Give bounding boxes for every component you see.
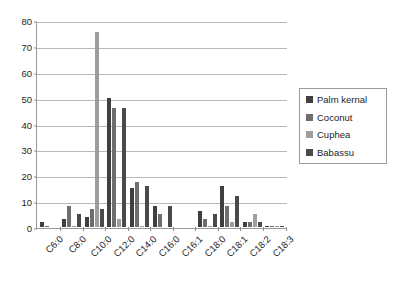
bar bbox=[270, 226, 274, 227]
bar bbox=[40, 222, 44, 227]
legend-label: Palm kernal bbox=[317, 95, 367, 105]
bar bbox=[100, 209, 104, 227]
bar bbox=[117, 219, 121, 227]
bar bbox=[198, 211, 202, 227]
legend-item: Babassu bbox=[306, 148, 382, 158]
bar-group bbox=[241, 22, 264, 227]
x-axis-label-cell: C12:0 bbox=[105, 231, 128, 279]
bar bbox=[62, 219, 66, 227]
bar bbox=[130, 188, 134, 227]
legend-item: Palm kernal bbox=[306, 95, 382, 105]
x-axis-label-cell: C14:0 bbox=[128, 231, 151, 279]
legend: Palm kernalCoconutCupheaBabassu bbox=[299, 88, 387, 164]
legend-swatch-icon bbox=[306, 131, 313, 138]
bar bbox=[112, 108, 116, 227]
y-axis-tick-mark bbox=[34, 47, 37, 48]
x-axis-tick-label: C18:3 bbox=[270, 234, 295, 259]
y-axis-tick-mark bbox=[34, 22, 37, 23]
bar-group bbox=[173, 22, 196, 227]
y-axis-tick-mark bbox=[34, 203, 37, 204]
y-axis-tick-mark bbox=[34, 125, 37, 126]
x-axis-label-cell: C18:2 bbox=[242, 231, 265, 279]
y-axis-tick-label: 0 bbox=[27, 224, 32, 234]
bar bbox=[220, 186, 224, 227]
y-axis-tick-label: 50 bbox=[21, 95, 32, 105]
y-axis-tick-label: 30 bbox=[21, 147, 32, 157]
bar bbox=[248, 222, 252, 227]
bar bbox=[67, 206, 71, 227]
y-axis-tick-label: 20 bbox=[21, 173, 32, 183]
bar-group bbox=[106, 22, 129, 227]
legend-item: Cuphea bbox=[306, 130, 382, 140]
bar-group bbox=[263, 22, 286, 227]
legend-label: Cuphea bbox=[317, 130, 350, 140]
bar-group bbox=[83, 22, 106, 227]
y-axis-tick-mark bbox=[34, 229, 37, 230]
legend-item: Coconut bbox=[306, 113, 382, 123]
bar bbox=[45, 226, 49, 227]
y-axis-tick-mark bbox=[34, 151, 37, 152]
legend-label: Coconut bbox=[317, 113, 352, 123]
bar bbox=[158, 214, 162, 227]
legend-swatch-icon bbox=[306, 114, 313, 121]
y-axis-tick-label: 60 bbox=[21, 69, 32, 79]
bar bbox=[280, 226, 284, 227]
bar bbox=[168, 206, 172, 227]
bar bbox=[265, 226, 269, 227]
bar bbox=[95, 32, 99, 227]
bar bbox=[253, 214, 257, 227]
bar bbox=[208, 226, 212, 227]
bar-group bbox=[128, 22, 151, 227]
legend-swatch-icon bbox=[306, 96, 313, 103]
bar bbox=[258, 222, 262, 227]
bar-group bbox=[196, 22, 219, 227]
y-axis-tick-label: 80 bbox=[21, 17, 32, 27]
bar bbox=[243, 222, 247, 227]
bar bbox=[85, 217, 89, 227]
x-axis-labels: C6:0C8:0C10:0C12:0C14:0C16:0C16:1C18:0C1… bbox=[37, 231, 287, 279]
bar bbox=[122, 108, 126, 227]
bar bbox=[90, 209, 94, 227]
x-axis-label-cell: C18:0 bbox=[196, 231, 219, 279]
bar bbox=[140, 226, 144, 227]
y-axis-tick-mark bbox=[34, 99, 37, 100]
bar bbox=[275, 226, 279, 227]
x-axis-label-cell: C8:0 bbox=[60, 231, 83, 279]
bar bbox=[77, 214, 81, 227]
y-axis-tick-label: 70 bbox=[21, 43, 32, 53]
x-axis-label-cell: C6:0 bbox=[37, 231, 60, 279]
legend-label: Babassu bbox=[317, 148, 354, 158]
x-axis-label-cell: C18:3 bbox=[264, 231, 287, 279]
fatty-acid-composition-bar-chart: 01020304050607080 C6:0C8:0C10:0C12:0C14:… bbox=[0, 0, 393, 284]
legend-swatch-icon bbox=[306, 149, 313, 156]
x-axis-label-cell: C10:0 bbox=[82, 231, 105, 279]
bar bbox=[145, 186, 149, 227]
bar bbox=[135, 182, 139, 227]
bar bbox=[235, 196, 239, 227]
legend-items: Palm kernalCoconutCupheaBabassu bbox=[306, 95, 382, 157]
y-axis-tick-label: 10 bbox=[21, 198, 32, 208]
bar-groups bbox=[38, 22, 286, 227]
bar-group bbox=[151, 22, 174, 227]
bar-group bbox=[38, 22, 61, 227]
plot-area: 01020304050607080 bbox=[36, 22, 286, 229]
bar bbox=[225, 206, 229, 227]
bar bbox=[213, 214, 217, 227]
bar bbox=[230, 222, 234, 227]
bar bbox=[203, 219, 207, 227]
x-axis-label-cell: C16:1 bbox=[173, 231, 196, 279]
x-axis-label-cell: C16:0 bbox=[151, 231, 174, 279]
bar bbox=[72, 226, 76, 227]
x-axis-label-cell: C18:1 bbox=[219, 231, 242, 279]
bar-group bbox=[61, 22, 84, 227]
y-axis-tick-label: 40 bbox=[21, 121, 32, 131]
bar bbox=[107, 98, 111, 227]
y-axis-tick-mark bbox=[34, 177, 37, 178]
bar-group bbox=[218, 22, 241, 227]
bar bbox=[153, 206, 157, 227]
y-axis-tick-mark bbox=[34, 73, 37, 74]
